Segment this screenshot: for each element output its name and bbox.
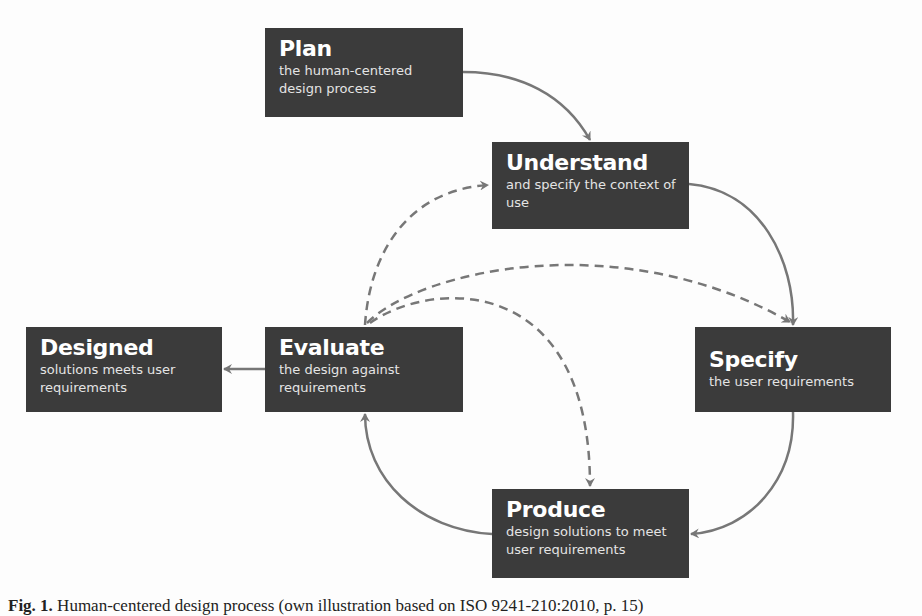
- node-evaluate-subtitle: the design against requirements: [279, 361, 419, 397]
- arrow-specify-to-produce: [691, 412, 793, 534]
- arrow-evaluate-to-understand: [365, 185, 488, 325]
- node-understand: Understand and specify the context of us…: [492, 142, 689, 229]
- node-evaluate: Evaluate the design against requirements: [265, 327, 463, 412]
- node-understand-subtitle: and specify the context of use: [506, 176, 679, 212]
- node-produce: Produce design solutions to meet user re…: [492, 489, 689, 578]
- node-produce-title: Produce: [506, 497, 679, 523]
- figure-caption-label: Fig. 1.: [8, 596, 53, 615]
- arrow-understand-to-specify: [689, 184, 793, 325]
- node-plan-subtitle: the human-centered design process: [279, 62, 429, 98]
- node-designed-title: Designed: [40, 335, 212, 361]
- node-produce-subtitle: design solutions to meet user requiremen…: [506, 523, 681, 559]
- arrow-produce-to-evaluate: [365, 414, 492, 534]
- node-plan-title: Plan: [279, 36, 453, 62]
- node-evaluate-title: Evaluate: [279, 335, 453, 361]
- node-designed-subtitle: solutions meets user requirements: [40, 361, 200, 397]
- arrow-plan-to-understand: [463, 72, 590, 140]
- figure-caption: Fig. 1. Human-centered design process (o…: [8, 596, 918, 616]
- node-designed: Designed solutions meets user requiremen…: [26, 327, 222, 412]
- arrow-evaluate-to-specify: [367, 265, 790, 323]
- node-specify-subtitle: the user requirements: [709, 373, 881, 391]
- node-specify: Specify the user requirements: [695, 327, 891, 412]
- figure-caption-text: Human-centered design process (own illus…: [53, 596, 644, 615]
- node-understand-title: Understand: [506, 150, 679, 176]
- node-plan: Plan the human-centered design process: [265, 28, 463, 117]
- node-specify-title: Specify: [709, 347, 881, 373]
